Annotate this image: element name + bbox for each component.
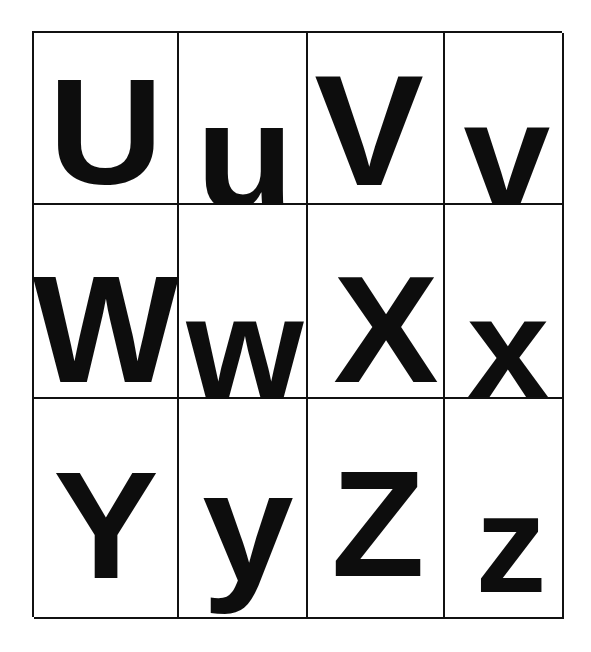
- letter-cell-w-lowercase[interactable]: w: [179, 205, 308, 399]
- letter-glyph-u-uppercase: U: [48, 57, 163, 207]
- letter-glyph-y-lowercase: y: [202, 447, 293, 605]
- letter-cell-v-lowercase[interactable]: v: [445, 33, 564, 205]
- letter-cell-v-uppercase[interactable]: V: [308, 33, 445, 205]
- letter-cell-z-uppercase[interactable]: Z: [308, 399, 445, 619]
- letter-cell-y-lowercase[interactable]: y: [179, 399, 308, 619]
- letter-cell-z-lowercase[interactable]: z: [445, 399, 564, 619]
- letter-cell-u-lowercase[interactable]: u: [179, 33, 308, 205]
- letter-cell-x-uppercase[interactable]: X: [308, 205, 445, 399]
- letter-cell-w-uppercase[interactable]: W: [34, 205, 179, 399]
- letter-cell-x-lowercase[interactable]: x: [445, 205, 564, 399]
- letter-glyph-w-uppercase: W: [32, 253, 178, 405]
- letter-glyph-z-lowercase: z: [475, 474, 546, 614]
- letter-cell-u-uppercase[interactable]: U: [34, 33, 179, 205]
- letter-grid: U u V v W w X x Y y Z: [32, 31, 562, 617]
- alphabet-chart-page: U u V v W w X x Y y Z: [0, 0, 591, 652]
- letter-glyph-x-lowercase: x: [467, 277, 549, 419]
- letter-cell-y-uppercase[interactable]: Y: [34, 399, 179, 619]
- letter-glyph-y-uppercase: Y: [53, 449, 158, 601]
- letter-glyph-z-uppercase: Z: [331, 449, 424, 599]
- letter-glyph-v-uppercase: V: [314, 51, 424, 209]
- letter-glyph-x-uppercase: X: [334, 253, 439, 405]
